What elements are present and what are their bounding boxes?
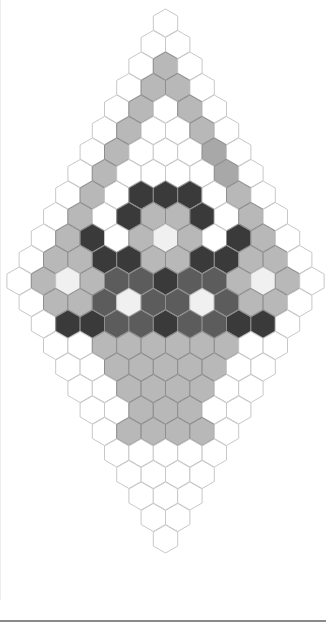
hex-grid [0,0,331,625]
bottom-divider [0,620,326,622]
